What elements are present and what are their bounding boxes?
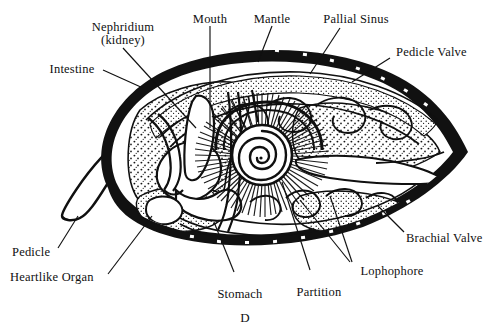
label-intestine: Intestine — [50, 63, 95, 76]
label-mantle: Mantle — [254, 13, 291, 26]
label-pedicle: Pedicle — [12, 246, 50, 259]
label-kidney: (kidney) — [101, 34, 145, 47]
label-heartlike-organ: Heartlike Organ — [10, 271, 94, 284]
label-pallial-sinus: Pallial Sinus — [323, 13, 388, 26]
heartlike-organ — [146, 197, 182, 225]
label-pedicle-valve: Pedicle Valve — [396, 46, 467, 59]
label-partition: Partition — [297, 286, 342, 299]
figure-caption: D — [240, 310, 249, 326]
label-mouth: Mouth — [193, 13, 227, 26]
label-brachial-valve: Brachial Valve — [406, 232, 483, 245]
label-lophophore: Lophophore — [360, 265, 423, 278]
lophophore-spiral — [232, 125, 292, 185]
label-stomach: Stomach — [217, 288, 262, 301]
